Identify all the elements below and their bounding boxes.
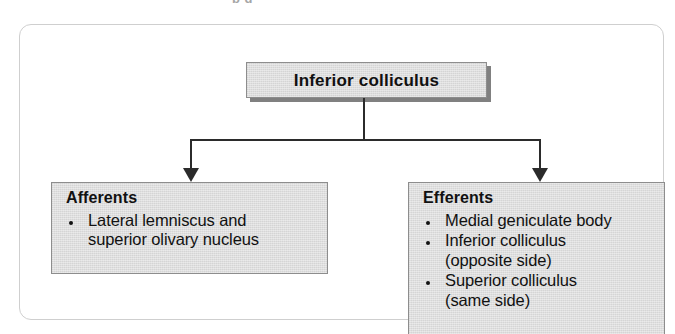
list-item-main: Medial geniculate body [445, 211, 612, 229]
list-item-sub: superior olivary nucleus [88, 230, 319, 249]
list-item-main: Superior colliculus [445, 271, 577, 289]
cropped-text-sliver: p g [232, 0, 412, 3]
connector-drop-left [190, 139, 192, 169]
node-inferior-colliculus-label: Inferior colliculus [294, 72, 440, 89]
list-item-main: Inferior colliculus [445, 231, 566, 249]
diagram-page: p g Inferior colliculus Afferents Latera… [0, 0, 675, 334]
bullet-dot-icon [69, 221, 73, 225]
efferents-list: Medial geniculate body Inferior collicul… [416, 211, 656, 310]
node-inferior-colliculus: Inferior colliculus [246, 62, 487, 98]
list-item: Inferior colliculus (opposite side) [416, 231, 656, 270]
connector-drop-right [539, 139, 541, 169]
arrowhead-left-icon [183, 168, 199, 182]
arrowhead-right-icon [532, 168, 548, 182]
bullet-dot-icon [426, 221, 430, 225]
node-efferents: Efferents Medial geniculate body Inferio… [408, 182, 665, 334]
connector-horizontal-bar [190, 139, 541, 141]
diagram-panel: Inferior colliculus Afferents Lateral le… [19, 24, 664, 320]
list-item-sub: (opposite side) [445, 251, 656, 270]
list-item: Medial geniculate body [416, 211, 656, 230]
list-item: Superior colliculus (same side) [416, 271, 656, 310]
connector-stem [363, 98, 365, 140]
list-item-sub: (same side) [445, 291, 656, 310]
node-efferents-heading: Efferents [423, 190, 656, 207]
afferents-list: Lateral lemniscus and superior olivary n… [59, 211, 319, 250]
bullet-dot-icon [426, 281, 430, 285]
list-item-main: Lateral lemniscus and [88, 211, 246, 229]
node-afferents: Afferents Lateral lemniscus and superior… [51, 182, 328, 274]
bullet-dot-icon [426, 241, 430, 245]
node-afferents-heading: Afferents [66, 190, 319, 207]
list-item: Lateral lemniscus and superior olivary n… [59, 211, 319, 250]
